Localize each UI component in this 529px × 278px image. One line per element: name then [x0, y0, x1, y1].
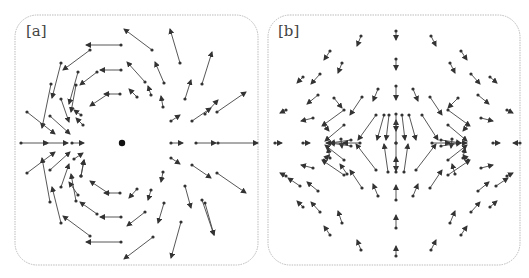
arrow-origin-dot [446, 123, 449, 126]
arrow-origin-dot [386, 170, 389, 173]
arrow-origin-dot [394, 141, 397, 144]
arrow-origin-dot [374, 113, 377, 116]
arrow-origin-dot [420, 113, 423, 116]
arrow-origin-dot [349, 138, 352, 141]
arrow-origin-dot [360, 95, 363, 98]
field-arrow [171, 115, 180, 121]
arrow-origin-dot [394, 170, 397, 173]
field-arrow [311, 74, 320, 84]
arrow-origin-dot [479, 166, 482, 169]
field-arrow [356, 144, 376, 170]
arrow-origin-dot [376, 87, 379, 90]
field-arrow [90, 181, 108, 193]
arrow-origin-dot [59, 221, 62, 224]
field-arrow [185, 80, 191, 99]
field-arrow [461, 51, 467, 60]
field-arrow [496, 178, 508, 186]
field-arrow [42, 84, 51, 128]
field-arrow [386, 115, 389, 140]
panel-frame [268, 15, 520, 265]
arrow-origin-dot [450, 137, 453, 140]
arrow-origin-dot [74, 199, 77, 202]
field-arrow [50, 152, 70, 170]
field-arrow [384, 144, 388, 172]
field-arrow [334, 98, 342, 108]
arrow-origin-dot [318, 210, 321, 213]
field-arrow [81, 160, 84, 176]
arrow-origin-dot [88, 234, 91, 237]
arrow-origin-dot [151, 235, 154, 238]
field-arrow [357, 240, 361, 250]
arrow-origin-dot [119, 240, 122, 243]
arrow-origin-dot [456, 96, 459, 99]
arrow-origin-dot [76, 70, 79, 73]
field-arrow [61, 164, 69, 187]
field-arrow [431, 36, 436, 46]
panel-b-label: [b] [278, 22, 299, 40]
field-arrow [127, 212, 145, 226]
arrow-origin-dot [360, 186, 363, 189]
arrow-origin-dot [518, 141, 521, 144]
arrow-origin-dot [316, 93, 319, 96]
arrow-origin-dot [118, 92, 121, 95]
arrow-origin-dot [429, 248, 432, 251]
field-arrow [409, 115, 416, 140]
arrow-origin-dot [284, 108, 287, 111]
arrow-origin-dot [322, 123, 325, 126]
arrow-origin-dot [178, 61, 181, 64]
arrow-origin-dot [135, 187, 138, 190]
arrow-origin-dot [466, 123, 469, 126]
arrow-origin-dot [161, 105, 164, 108]
arrow-origin-dot [316, 189, 319, 192]
field-arrow [127, 62, 145, 82]
field-arrow [324, 226, 330, 235]
arrow-origin-dot [429, 34, 432, 37]
arrow-origin-dot [394, 112, 397, 115]
arrow-origin-dot [79, 113, 82, 116]
arrow-origin-dot [469, 210, 472, 213]
field-arrow [338, 63, 342, 73]
field-arrow [124, 237, 153, 259]
arrow-origin-dot [359, 34, 362, 37]
arrow-origin-dot [169, 141, 172, 144]
arrow-origin-dot [476, 189, 479, 192]
field-arrow [416, 144, 436, 170]
arrow-origin-dot [394, 198, 397, 201]
arrow-origin-dot [505, 108, 508, 111]
arrow-origin-dot [461, 156, 464, 159]
field-arrow [481, 165, 493, 168]
arrow-origin-dot [342, 108, 345, 111]
arrow-origin-dot [394, 84, 397, 87]
arrow-origin-dot [190, 163, 193, 166]
arrow-origin-dot [411, 194, 414, 197]
arrow-origin-dot [439, 138, 442, 141]
arrow-origin-dot [25, 110, 28, 113]
arrow-origin-dot [339, 137, 342, 140]
arrow-origin-dot [215, 110, 218, 113]
arrow-origin-dot [342, 158, 345, 161]
arrow-origin-dot [95, 70, 98, 73]
field-arrow [448, 160, 470, 175]
arrow-origin-dot [44, 141, 47, 144]
arrow-origin-dot [149, 93, 152, 96]
field-arrow [402, 115, 405, 140]
arrow-origin-dot [161, 170, 164, 173]
field-arrow [307, 182, 318, 191]
arrow-origin-dot [119, 68, 122, 71]
arrow-origin-dot [25, 171, 28, 174]
arrow-origin-dot [273, 141, 276, 144]
arrow-origin-dot [430, 141, 433, 144]
arrow-origin-dot [469, 72, 472, 75]
field-arrow [129, 89, 137, 97]
arrow-origin-dot [162, 81, 165, 84]
field-arrow [171, 222, 181, 258]
arrow-origin-dot [59, 61, 62, 64]
arrow-origin-dot [79, 174, 82, 177]
arrow-origin-dot [150, 48, 153, 51]
field-arrow [69, 182, 78, 195]
panel-frame [15, 15, 258, 265]
arrow-origin-dot [394, 29, 397, 32]
arrow-origin-dot [215, 171, 218, 174]
field-arrow [471, 202, 480, 212]
arrow-origin-dot [106, 92, 109, 95]
